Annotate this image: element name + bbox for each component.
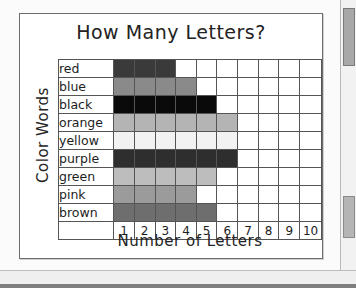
bar-cell-empty [238, 78, 259, 96]
bar-cell-empty [217, 204, 238, 222]
bar-cell-empty [238, 132, 259, 150]
row-label-orange: orange [59, 114, 114, 132]
bar-cell-empty [176, 60, 197, 78]
bar-cell-filled [155, 114, 176, 132]
bar-cell-filled [114, 204, 135, 222]
bar-cell-filled [134, 78, 155, 96]
bar-cell-filled [196, 96, 217, 114]
bar-cell-filled [155, 150, 176, 168]
bar-cell-filled [114, 96, 135, 114]
bar-cell-empty [300, 150, 322, 168]
bar-cell-filled [155, 96, 176, 114]
bar-cell-empty [300, 78, 322, 96]
worksheet-page: How Many Letters? Color Words redbluebla… [19, 13, 323, 259]
bar-cell-empty [196, 78, 217, 96]
bar-cell-empty [279, 150, 300, 168]
bar-cell-empty [279, 96, 300, 114]
bar-cell-filled [114, 114, 135, 132]
bar-cell-filled [155, 168, 176, 186]
bar-cell-empty [300, 114, 322, 132]
x-axis-label: Number of Letters [58, 232, 322, 250]
bar-cell-empty [217, 186, 238, 204]
table-row: yellow [59, 132, 322, 150]
y-axis-label: Color Words [34, 76, 52, 194]
bar-cell-filled [134, 132, 155, 150]
bar-cell-filled [134, 150, 155, 168]
bar-cell-filled [176, 186, 197, 204]
bar-cell-filled [134, 186, 155, 204]
bar-cell-filled [134, 96, 155, 114]
bar-cell-empty [300, 132, 322, 150]
bar-cell-filled [176, 132, 197, 150]
row-label-green: green [59, 168, 114, 186]
bar-cell-empty [238, 168, 259, 186]
bar-cell-filled [155, 132, 176, 150]
bar-cell-empty [300, 186, 322, 204]
bar-cell-filled [114, 60, 135, 78]
bar-cell-filled [176, 114, 197, 132]
bar-cell-filled [134, 168, 155, 186]
table-row: brown [59, 204, 322, 222]
row-label-red: red [59, 60, 114, 78]
bar-cell-empty [258, 204, 279, 222]
bar-cell-filled [217, 132, 238, 150]
bar-cell-empty [258, 78, 279, 96]
scrollbar-thumb[interactable] [343, 8, 355, 66]
bar-cell-filled [134, 204, 155, 222]
bar-cell-filled [217, 150, 238, 168]
chart-title: How Many Letters? [20, 21, 322, 43]
bar-cell-empty [279, 114, 300, 132]
bar-cell-empty [279, 132, 300, 150]
bar-cell-empty [279, 78, 300, 96]
bar-cell-filled [196, 168, 217, 186]
vertical-scrollbar[interactable] [340, 0, 356, 271]
table-row: orange [59, 114, 322, 132]
viewer-bottom-edge-shadow [0, 284, 356, 288]
bar-cell-empty [196, 60, 217, 78]
bar-cell-filled [114, 186, 135, 204]
bar-cell-filled [114, 132, 135, 150]
bar-cell-empty [217, 168, 238, 186]
bar-cell-empty [258, 60, 279, 78]
bar-cell-filled [176, 168, 197, 186]
bar-cell-empty [217, 96, 238, 114]
bar-cell-empty [217, 60, 238, 78]
page-area: How Many Letters? Color Words redbluebla… [0, 0, 341, 271]
bar-cell-empty [279, 168, 300, 186]
bar-cell-filled [196, 150, 217, 168]
row-label-brown: brown [59, 204, 114, 222]
bar-cell-filled [176, 78, 197, 96]
scrollbar-thumb-secondary[interactable] [343, 196, 355, 238]
table-row: pink [59, 186, 322, 204]
bar-cell-empty [238, 186, 259, 204]
bar-cell-filled [217, 114, 238, 132]
bar-cell-filled [155, 60, 176, 78]
bar-cell-empty [196, 186, 217, 204]
table-row: red [59, 60, 322, 78]
row-label-purple: purple [59, 150, 114, 168]
document-viewer: How Many Letters? Color Words redbluebla… [0, 0, 356, 288]
bar-cell-filled [114, 168, 135, 186]
bar-cell-empty [238, 204, 259, 222]
bar-cell-filled [155, 186, 176, 204]
bar-cell-empty [238, 114, 259, 132]
bar-cell-empty [238, 96, 259, 114]
table-row: black [59, 96, 322, 114]
row-label-pink: pink [59, 186, 114, 204]
bar-cell-filled [134, 60, 155, 78]
bar-cell-empty [258, 150, 279, 168]
bar-cell-filled [196, 204, 217, 222]
bar-cell-empty [238, 150, 259, 168]
bar-cell-filled [196, 132, 217, 150]
bar-cell-empty [258, 168, 279, 186]
table-row: green [59, 168, 322, 186]
bar-cell-empty [258, 132, 279, 150]
bar-cell-filled [114, 150, 135, 168]
bar-cell-empty [279, 186, 300, 204]
bar-cell-filled [176, 204, 197, 222]
bar-graph-grid: redblueblackorangeyellowpurplegreenpinkb… [58, 59, 322, 240]
bar-cell-filled [114, 78, 135, 96]
bar-cell-empty [258, 114, 279, 132]
bar-cell-filled [155, 204, 176, 222]
bar-cell-filled [176, 150, 197, 168]
